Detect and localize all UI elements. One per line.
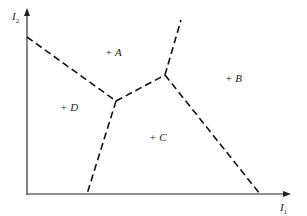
boundary-a-c [116,75,165,101]
region-label-a: + A [105,46,122,58]
decision-region-diagram: I2 I1 + A + B + C + D [0,0,307,216]
boundary-a-b [165,20,181,75]
boundary-c-d [87,101,116,194]
region-label-d: + D [60,101,78,113]
x-axis-arrow-icon [283,191,291,197]
region-label-c: + C [149,131,167,143]
x-axis-label: I1 [279,201,288,216]
boundary-b-c [165,75,260,194]
region-label-b: + B [225,72,242,84]
boundary-a-d [27,37,116,101]
y-axis-arrow-icon [24,8,30,16]
y-axis-label: I2 [11,10,20,25]
